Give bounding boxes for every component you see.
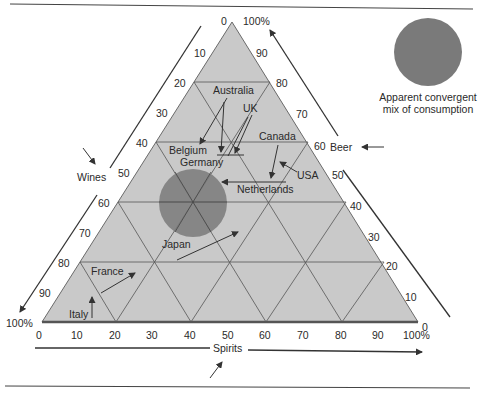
label-belgium: Belgium [169,144,207,156]
convergence-circle [159,169,227,237]
svg-text:40: 40 [184,329,196,341]
label-france: France [91,265,124,277]
ternary-diagram: Apparent convergent mix of consumption W… [0,0,485,394]
svg-text:0: 0 [36,329,42,341]
svg-text:70: 70 [296,108,308,120]
legend-circle [394,18,462,86]
spirits-label: Spirits [213,342,242,354]
svg-text:50: 50 [118,167,130,179]
svg-text:20: 20 [174,77,186,89]
svg-text:10: 10 [405,291,417,303]
svg-text:30: 30 [156,107,168,119]
svg-text:90: 90 [39,287,51,299]
apex-zero-label: 0 [221,15,227,27]
legend-line-1: Apparent convergent [379,91,477,103]
svg-text:90: 90 [372,329,384,341]
svg-text:60: 60 [98,197,110,209]
label-germany: Germany [180,156,224,168]
bottom-rule [5,386,470,388]
label-usa: USA [297,169,319,181]
beer-label: Beer [330,141,353,153]
label-japan: Japan [162,238,191,250]
wines-pointer-arrow [83,148,95,164]
svg-text:20: 20 [386,260,398,272]
svg-text:10: 10 [71,329,83,341]
spirits-pointer-arrow [210,362,222,378]
svg-text:100%: 100% [243,15,270,27]
svg-text:70: 70 [79,227,91,239]
spirits-ticks: 0 10 20 30 40 50 60 70 80 90 100% [36,329,430,341]
svg-text:60: 60 [259,329,271,341]
top-rule [10,4,473,9]
svg-text:60: 60 [314,140,326,152]
svg-text:10: 10 [194,47,206,59]
label-italy: Italy [69,308,89,320]
label-uk: UK [243,102,258,114]
svg-text:100%: 100% [6,317,33,329]
svg-text:40: 40 [350,200,362,212]
legend-line-2: mix of consumption [383,103,474,115]
svg-text:80: 80 [58,257,70,269]
label-netherlands: Netherlands [237,183,294,195]
svg-text:50: 50 [222,329,234,341]
svg-text:30: 30 [368,231,380,243]
svg-text:70: 70 [297,329,309,341]
svg-text:50: 50 [332,169,344,181]
svg-text:80: 80 [335,329,347,341]
svg-text:80: 80 [276,77,288,89]
svg-text:30: 30 [146,329,158,341]
label-canada: Canada [259,130,296,142]
spirits-axis-arrow [248,350,422,352]
svg-text:40: 40 [136,137,148,149]
wines-label: Wines [77,171,106,183]
svg-text:90: 90 [256,47,268,59]
label-australia: Australia [213,84,254,96]
svg-text:20: 20 [109,329,121,341]
svg-text:100%: 100% [403,329,430,341]
